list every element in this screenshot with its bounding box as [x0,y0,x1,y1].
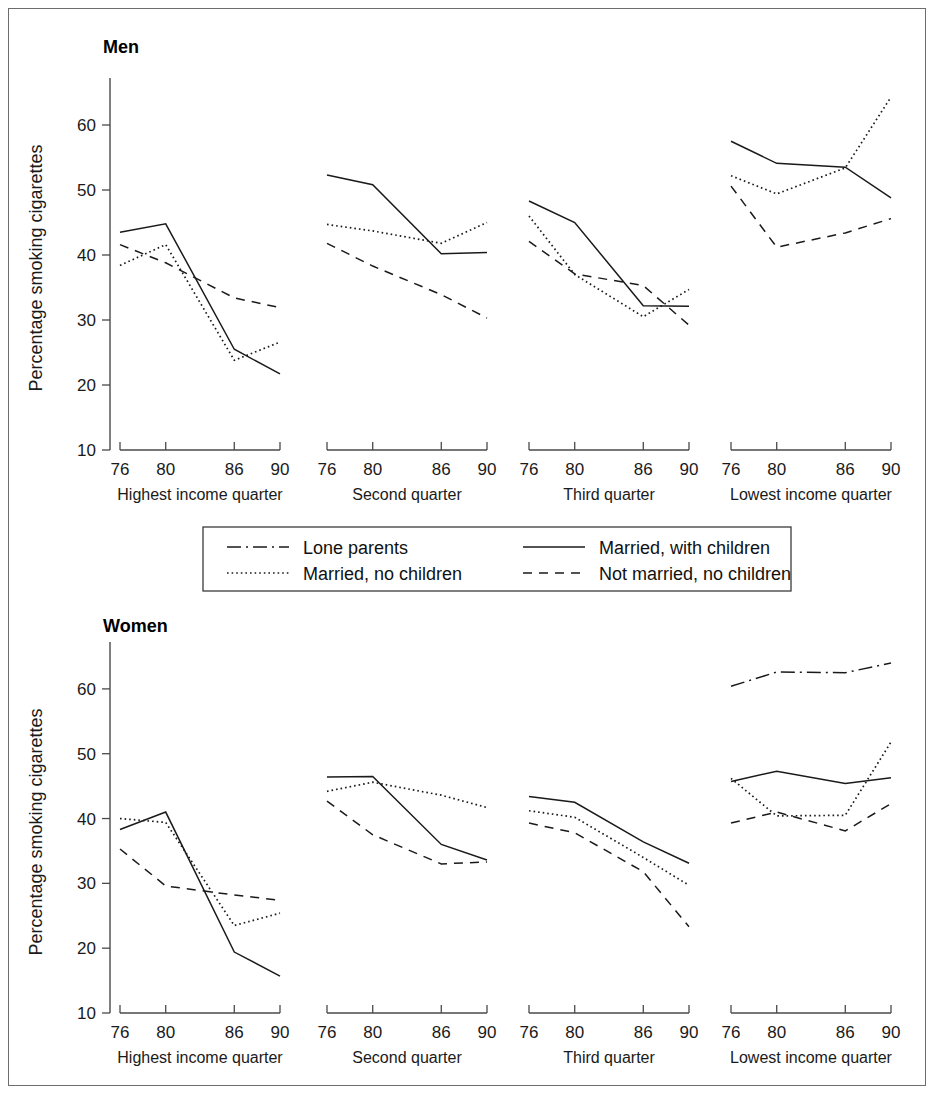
series-line-women-second-married-with-children [327,776,487,860]
legend-not-married-no-children-label: Not married, no children [599,564,791,584]
y-tick-label-men-20: 20 [77,376,96,395]
series-line-men-lowest-not-married-no-children [731,186,891,247]
panel-label-men-highest: Highest income quarter [117,486,283,503]
x-tick-label-women-lowest-80: 80 [767,1023,786,1042]
x-tick-label-women-second-90: 90 [478,1023,497,1042]
series-line-women-lowest-not-married-no-children [731,804,891,831]
x-tick-label-women-highest-90: 90 [271,1023,290,1042]
y-tick-label-women-60: 60 [77,680,96,699]
x-tick-label-men-second-80: 80 [363,460,382,479]
series-line-men-third-married-no-children [529,216,689,317]
y-tick-label-women-20: 20 [77,939,96,958]
group-title-women: Women [103,616,168,636]
series-line-women-third-married-with-children [529,797,689,864]
x-tick-label-women-lowest-90: 90 [882,1023,901,1042]
series-line-women-lowest-married-no-children [731,742,891,816]
panel-label-women-highest: Highest income quarter [117,1049,283,1066]
x-tick-label-women-second-76: 76 [318,1023,337,1042]
series-line-women-highest-married-with-children [120,812,280,976]
x-tick-label-men-highest-86: 86 [225,460,244,479]
y-tick-label-men-10: 10 [77,441,96,460]
x-tick-label-women-second-80: 80 [363,1023,382,1042]
x-tick-label-men-second-76: 76 [318,460,337,479]
panel-label-men-second: Second quarter [352,486,462,503]
x-tick-label-men-highest-76: 76 [111,460,130,479]
x-tick-label-women-lowest-76: 76 [722,1023,741,1042]
panel-label-men-lowest: Lowest income quarter [730,486,893,503]
series-line-women-second-married-no-children [327,782,487,807]
series-line-men-third-not-married-no-children [529,241,689,325]
x-tick-label-women-third-76: 76 [520,1023,539,1042]
group-title-men: Men [103,37,139,57]
x-tick-label-men-lowest-76: 76 [722,460,741,479]
series-line-women-lowest-lone-parents [731,663,891,686]
x-tick-label-women-highest-80: 80 [156,1023,175,1042]
panel-label-men-third: Third quarter [563,486,655,503]
x-tick-label-men-third-76: 76 [520,460,539,479]
x-tick-label-women-highest-86: 86 [225,1023,244,1042]
x-tick-label-men-lowest-90: 90 [882,460,901,479]
x-tick-label-women-second-86: 86 [432,1023,451,1042]
series-line-women-highest-married-no-children [120,819,280,926]
x-tick-label-men-highest-80: 80 [156,460,175,479]
x-tick-label-women-third-90: 90 [680,1023,699,1042]
legend-lone-parents-label: Lone parents [303,538,408,558]
series-line-men-second-not-married-no-children [327,243,487,318]
series-line-men-third-married-with-children [529,201,689,306]
series-line-men-highest-not-married-no-children [120,245,280,308]
series-line-men-lowest-married-no-children [731,97,891,194]
panel-label-women-third: Third quarter [563,1049,655,1066]
series-line-men-second-married-with-children [327,175,487,254]
y-tick-label-men-50: 50 [77,181,96,200]
series-line-women-third-not-married-no-children [529,823,689,927]
x-tick-label-men-third-90: 90 [680,460,699,479]
x-tick-label-women-third-86: 86 [634,1023,653,1042]
panel-label-women-second: Second quarter [352,1049,462,1066]
x-tick-label-men-second-86: 86 [432,460,451,479]
y-axis-title-women: Percentage smoking cigarettes [26,708,46,955]
legend-married-with-children-label: Married, with children [599,538,770,558]
series-line-women-lowest-married-with-children [731,771,891,783]
y-axis-title-men: Percentage smoking cigarettes [26,144,46,391]
chart-canvas: MenPercentage smoking cigarettes10203040… [0,0,936,1096]
x-tick-label-men-lowest-80: 80 [767,460,786,479]
series-line-women-highest-not-married-no-children [120,849,280,900]
x-tick-label-women-third-80: 80 [565,1023,584,1042]
x-tick-label-men-third-86: 86 [634,460,653,479]
x-tick-label-women-highest-76: 76 [111,1023,130,1042]
y-tick-label-women-10: 10 [77,1004,96,1023]
x-tick-label-men-highest-90: 90 [271,460,290,479]
figure-root: MenPercentage smoking cigarettes10203040… [0,0,936,1096]
series-line-men-second-married-no-children [327,223,487,244]
legend-married-no-children-label: Married, no children [303,564,462,584]
y-tick-label-men-30: 30 [77,311,96,330]
x-tick-label-men-second-90: 90 [478,460,497,479]
series-line-men-lowest-married-with-children [731,141,891,198]
y-tick-label-men-60: 60 [77,116,96,135]
y-tick-label-men-40: 40 [77,246,96,265]
x-tick-label-women-lowest-86: 86 [836,1023,855,1042]
y-tick-label-women-50: 50 [77,745,96,764]
y-tick-label-women-40: 40 [77,810,96,829]
panel-label-women-lowest: Lowest income quarter [730,1049,893,1066]
x-tick-label-men-lowest-86: 86 [836,460,855,479]
y-tick-label-women-30: 30 [77,874,96,893]
x-tick-label-men-third-80: 80 [565,460,584,479]
